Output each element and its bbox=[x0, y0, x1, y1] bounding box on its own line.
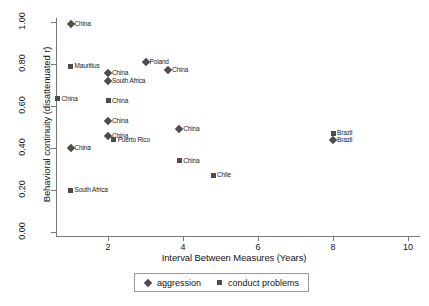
x-axis-title: Interval Between Measures (Years) bbox=[48, 252, 420, 263]
x-tick-mark bbox=[183, 236, 184, 241]
y-tick-mark bbox=[51, 148, 56, 149]
scatter-chart: Behavioral continuity (disattenuated r) … bbox=[0, 0, 429, 306]
data-point-label: South Africa bbox=[75, 186, 108, 193]
square-marker-icon bbox=[211, 173, 216, 178]
y-axis-title: Behavioral continuity (disattenuated r) bbox=[41, 10, 52, 240]
square-marker-icon bbox=[177, 158, 182, 163]
square-marker-icon bbox=[331, 131, 336, 136]
y-tick-mark bbox=[51, 106, 56, 107]
x-tick-label: 4 bbox=[168, 242, 198, 252]
data-point-label: China bbox=[112, 69, 128, 76]
data-point-label: China bbox=[61, 95, 77, 102]
y-axis-line bbox=[56, 18, 57, 236]
y-tick-label: 1.00 bbox=[17, 0, 27, 44]
square-marker-icon bbox=[68, 64, 73, 69]
x-tick-label: 10 bbox=[393, 242, 423, 252]
y-tick-label: 0.20 bbox=[17, 166, 27, 212]
data-point-label: China bbox=[75, 144, 91, 151]
diamond-marker-icon bbox=[141, 58, 149, 66]
y-tick-label: 0.00 bbox=[17, 208, 27, 254]
diamond-marker-icon bbox=[329, 135, 337, 143]
data-point-label: China bbox=[183, 157, 199, 164]
data-point-label: South Africa bbox=[112, 77, 145, 84]
x-tick-label: 2 bbox=[93, 242, 123, 252]
diamond-marker-icon bbox=[175, 125, 183, 133]
square-marker-icon bbox=[106, 98, 111, 103]
y-tick-label: 0.60 bbox=[17, 82, 27, 128]
legend-label: aggression bbox=[157, 278, 201, 288]
diamond-marker-icon bbox=[144, 279, 152, 287]
square-marker-icon bbox=[68, 188, 73, 193]
data-point-label: Poland bbox=[150, 58, 169, 65]
data-point-label: China bbox=[172, 66, 188, 73]
chart-legend: aggressionconduct problems bbox=[134, 273, 309, 292]
legend-entry-aggression: aggression bbox=[144, 278, 201, 288]
y-tick-mark bbox=[51, 232, 56, 233]
x-axis-line bbox=[56, 236, 420, 237]
square-marker-icon bbox=[55, 96, 60, 101]
legend-entry-conduct-problems: conduct problems bbox=[215, 278, 299, 288]
diamond-marker-icon bbox=[66, 144, 74, 152]
data-point-label: Chile bbox=[217, 171, 231, 178]
x-tick-mark bbox=[333, 236, 334, 241]
y-tick-mark bbox=[51, 190, 56, 191]
x-tick-mark bbox=[108, 236, 109, 241]
square-marker-icon bbox=[215, 279, 223, 287]
y-tick-mark bbox=[51, 22, 56, 23]
square-marker-icon bbox=[111, 137, 116, 142]
x-tick-mark bbox=[408, 236, 409, 241]
data-point-label: China bbox=[75, 20, 91, 27]
data-point-label: China bbox=[183, 125, 199, 132]
x-tick-label: 6 bbox=[243, 242, 273, 252]
data-point-label: Brazil bbox=[337, 136, 352, 143]
diamond-marker-icon bbox=[66, 20, 74, 28]
x-tick-mark bbox=[258, 236, 259, 241]
data-point-label: Brazil bbox=[337, 129, 352, 136]
legend-label: conduct problems bbox=[228, 278, 299, 288]
data-point-label: Puerto Rico bbox=[118, 136, 150, 143]
diamond-marker-icon bbox=[104, 116, 112, 124]
data-point-label: China bbox=[112, 117, 128, 124]
data-point-label: Mauritius bbox=[75, 62, 100, 69]
y-tick-label: 0.80 bbox=[17, 40, 27, 86]
diamond-marker-icon bbox=[104, 77, 112, 85]
y-tick-label: 0.40 bbox=[17, 124, 27, 170]
y-tick-mark bbox=[51, 64, 56, 65]
x-tick-label: 8 bbox=[318, 242, 348, 252]
diamond-marker-icon bbox=[164, 66, 172, 74]
data-point-label: China bbox=[112, 97, 128, 104]
